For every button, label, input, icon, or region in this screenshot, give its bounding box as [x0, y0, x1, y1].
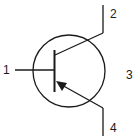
terminal-label-1: 1	[3, 64, 10, 76]
emitter-arrow-icon	[56, 81, 67, 91]
terminal-label-3: 3	[126, 69, 133, 81]
terminal-label-2: 2	[110, 8, 117, 20]
terminal-label-4: 4	[110, 122, 117, 134]
transistor-envelope-circle	[33, 35, 105, 107]
